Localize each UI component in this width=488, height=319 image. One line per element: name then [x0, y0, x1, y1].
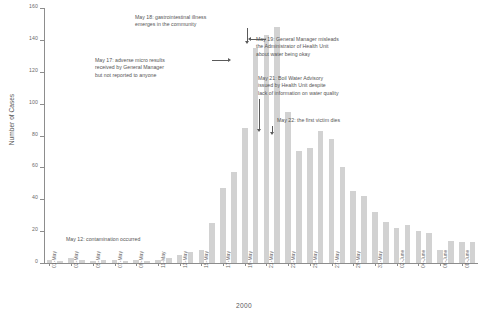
bar — [220, 188, 226, 263]
x-axis-title: 2000 — [0, 302, 488, 309]
y-tick-label: 40 — [32, 194, 38, 200]
x-tick-mark — [93, 263, 94, 266]
bar — [416, 231, 422, 263]
annotation-may-18: May 18: gastrointestinal illness emerges… — [135, 14, 270, 29]
bar — [209, 223, 215, 263]
y-tick-label: 120 — [29, 67, 38, 73]
bar — [144, 261, 150, 263]
bar — [90, 261, 96, 263]
y-tick: 140 — [0, 40, 44, 41]
x-tick-mark — [158, 263, 159, 266]
x-tick-mark — [115, 263, 116, 266]
bar — [57, 261, 63, 263]
y-tick-mark — [40, 263, 44, 264]
bar — [340, 167, 346, 263]
y-tick: 20 — [0, 231, 44, 232]
annotation-arrow-head — [248, 37, 251, 41]
bar — [242, 128, 248, 263]
y-tick-label: 140 — [29, 35, 38, 41]
bar — [372, 212, 378, 263]
bar — [361, 196, 367, 263]
bar — [123, 261, 129, 263]
bar — [459, 242, 465, 263]
bar — [426, 233, 432, 263]
x-tick-mark — [71, 263, 72, 266]
bar — [394, 228, 400, 263]
y-tick: 60 — [0, 167, 44, 168]
annotation-arrow-head — [228, 58, 231, 62]
x-tick-mark — [245, 263, 246, 266]
annotation-may-17: May 17: adverse micro results received b… — [95, 57, 220, 79]
annotation-leader-line — [212, 60, 228, 61]
bar — [199, 250, 205, 263]
bar — [274, 27, 280, 263]
x-tick-mark — [310, 263, 311, 266]
bar — [296, 151, 302, 263]
bar — [285, 112, 291, 263]
annotation-may-19: May 19: General Manager misleads the Adm… — [256, 36, 396, 58]
bar — [470, 242, 476, 263]
x-tick-mark — [397, 263, 398, 266]
bar — [437, 250, 443, 263]
bar — [68, 258, 74, 263]
x-tick-mark — [440, 263, 441, 266]
annotation-may-22: May 22: the first victim dies — [277, 117, 397, 124]
bar — [329, 139, 335, 263]
bar — [112, 260, 118, 263]
annotation-arrow-head — [270, 132, 274, 135]
y-tick-label: 60 — [32, 162, 38, 168]
bar — [264, 35, 270, 263]
bar — [133, 260, 139, 263]
y-tick-label: 160 — [29, 3, 38, 9]
bar — [448, 241, 454, 263]
bar — [188, 252, 194, 263]
bar — [155, 260, 161, 263]
x-tick-mark — [375, 263, 376, 266]
bar — [307, 148, 313, 263]
x-tick-mark — [223, 263, 224, 266]
y-tick: 120 — [0, 72, 44, 73]
bar — [318, 131, 324, 263]
y-tick: 160 — [0, 8, 44, 9]
x-tick-mark — [462, 263, 463, 266]
bar — [383, 222, 389, 263]
y-tick-label: 80 — [32, 131, 38, 137]
annotation-may-21: May 21: Boil Water Advisory issued by He… — [258, 75, 393, 97]
bar — [350, 191, 356, 263]
epidemic-curve-chart: 020406080100120140160 01-May03-May05-May… — [0, 0, 488, 319]
x-tick-mark — [180, 263, 181, 266]
annotation-leader-line — [259, 99, 260, 129]
bar — [177, 255, 183, 263]
annotation-leader-line — [251, 39, 266, 40]
bar — [79, 260, 85, 263]
bar — [231, 172, 237, 263]
annotation-arrow-head — [257, 129, 261, 132]
y-tick: 40 — [0, 199, 44, 200]
bar — [47, 260, 53, 263]
annotation-may-12: May 12: contamination occurred — [66, 236, 186, 243]
y-tick-label: 20 — [32, 226, 38, 232]
y-axis-title: Number of Cases — [8, 75, 15, 165]
bar — [405, 225, 411, 263]
y-tick: 0 — [0, 263, 44, 264]
bar — [101, 260, 107, 263]
x-tick-mark — [288, 263, 289, 266]
y-tick-label: 100 — [29, 99, 38, 105]
y-tick-label: 0 — [35, 258, 38, 264]
x-tick-mark — [332, 263, 333, 266]
bar — [166, 258, 172, 263]
x-axis-line — [44, 263, 478, 264]
